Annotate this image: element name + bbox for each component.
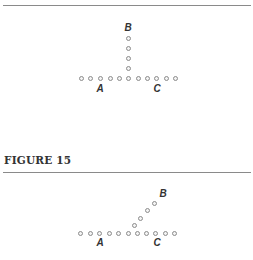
bottom-branch-dot <box>145 208 150 213</box>
top-baseline-dot <box>108 76 113 81</box>
top-baseline-dot <box>164 76 169 81</box>
bottom-label-b: B <box>159 189 166 199</box>
bottom-branch-dot <box>132 223 137 228</box>
bottom-baseline-dot <box>116 231 121 236</box>
top-baseline-dot <box>126 76 131 81</box>
bottom-label-c: C <box>153 238 160 248</box>
bottom-baseline-dot <box>172 231 177 236</box>
top-baseline-dot <box>88 76 93 81</box>
top-baseline-dot <box>136 76 141 81</box>
bottom-baseline-dot <box>97 231 102 236</box>
top-rule <box>3 5 251 6</box>
top-baseline-dot <box>79 76 84 81</box>
bottom-baseline-dot <box>144 231 149 236</box>
top-label-b: B <box>124 23 131 33</box>
top-baseline-dot <box>98 76 103 81</box>
bottom-baseline-dot <box>163 231 168 236</box>
bottom-baseline-dot <box>107 231 112 236</box>
top-baseline-dot <box>173 76 178 81</box>
top-label-c: C <box>153 84 160 94</box>
top-baseline-dot <box>117 76 122 81</box>
top-branch-dot <box>126 66 131 71</box>
caption-rule <box>3 172 251 173</box>
top-label-a: A <box>96 84 103 94</box>
bottom-baseline-dot <box>126 231 131 236</box>
bottom-baseline-dot <box>78 231 83 236</box>
top-branch-dot <box>126 56 131 61</box>
bottom-baseline-dot <box>135 231 140 236</box>
top-baseline-dot <box>145 76 150 81</box>
bottom-label-a: A <box>96 238 103 248</box>
bottom-baseline-dot <box>88 231 93 236</box>
top-branch-dot <box>126 36 131 41</box>
bottom-branch-dot <box>138 216 143 221</box>
bottom-branch-dot <box>152 201 157 206</box>
figure-caption: FIGURE 15 <box>4 154 71 166</box>
top-branch-dot <box>126 46 131 51</box>
top-baseline-dot <box>154 76 159 81</box>
bottom-baseline-dot <box>153 231 158 236</box>
